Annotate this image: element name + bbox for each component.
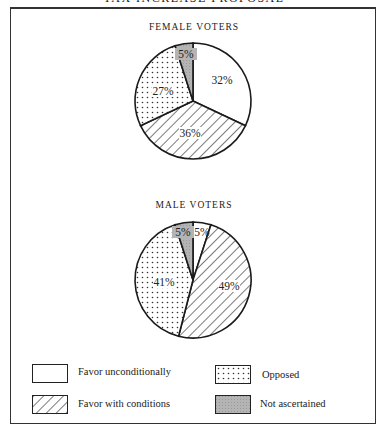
legend-label-opposed: Opposed [262,369,299,380]
pie-label: 5% [194,226,210,238]
pie-label: 5% [178,48,194,60]
legend-label-not-ascertained: Not ascertained [260,398,326,409]
pie-label: 32% [211,74,233,86]
female-pie: 32%36%27%5% [135,43,251,159]
legend-swatch-favor-with-conditions [32,395,68,414]
legend-label-favor-unconditionally: Favor unconditionally [78,366,171,377]
legend-swatch-favor-unconditionally [32,364,68,383]
legend-swatch-not-ascertained [215,395,251,414]
legend-swatch-opposed [215,365,251,384]
legend-label-favor-with-conditions: Favor with conditions [78,398,170,409]
male-pie: 5%49%41%5% [135,222,251,338]
pie-label: 49% [218,280,240,292]
pie-label: 36% [179,127,201,139]
pie-label: 41% [153,276,175,288]
pie-label: 5% [175,226,191,238]
pie-label: 27% [152,85,174,97]
